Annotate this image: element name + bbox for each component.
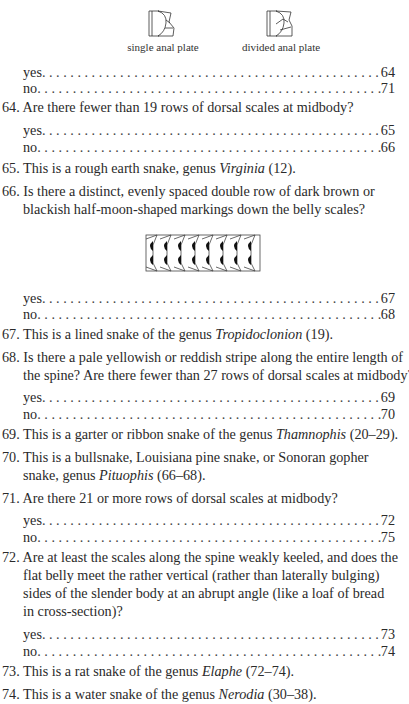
choice-no-70: no70: [23, 406, 395, 423]
choice-yes-65: yes65: [23, 122, 395, 139]
divided-anal-plate-caption: divided anal plate: [226, 41, 336, 53]
choice-yes-64: yes64: [23, 64, 395, 81]
choice-no-71: no71: [23, 80, 395, 97]
choice-no-75: no75: [23, 529, 395, 546]
choice-no-74: no74: [23, 643, 395, 660]
single-anal-plate-figure: single anal plate: [118, 8, 208, 53]
belly-markings-figure: [145, 233, 261, 273]
target-number: 71: [381, 80, 395, 97]
single-anal-plate-icon: [143, 8, 183, 38]
divided-anal-plate-figure: divided anal plate: [226, 8, 336, 53]
single-anal-plate-caption: single anal plate: [118, 41, 208, 53]
choice-yes-69: yes69: [23, 389, 395, 406]
choice-yes-72: yes72: [23, 512, 395, 529]
choice-yes-73: yes73: [23, 626, 395, 643]
choice-yes-67: yes67: [23, 290, 395, 307]
divided-anal-plate-icon: [261, 8, 301, 38]
anal-plate-figures: single anal plate divided anal plate: [0, 8, 409, 58]
choice-no-66: no66: [23, 139, 395, 156]
choice-no-68: no68: [23, 306, 395, 323]
target-number: 64: [381, 64, 395, 81]
